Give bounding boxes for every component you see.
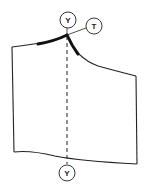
emphasized-segments xyxy=(38,35,78,54)
right-side-line xyxy=(136,76,137,164)
top-y-label: Y xyxy=(65,16,71,25)
t-leader xyxy=(67,28,86,35)
bottom-y-label: Y xyxy=(64,169,70,178)
armhole-emphasis xyxy=(67,35,78,54)
pattern-diagram: Y T Y xyxy=(0,0,145,186)
t-marker: T xyxy=(86,18,102,34)
left-side-line xyxy=(12,47,14,152)
shoulder-line xyxy=(12,43,40,47)
armhole-curve xyxy=(67,35,136,76)
pattern-outline xyxy=(12,35,137,164)
t-label: T xyxy=(92,22,97,31)
shoulder-emphasis xyxy=(38,35,67,44)
bottom-y-marker: Y xyxy=(59,165,75,181)
top-y-marker: Y xyxy=(60,12,76,28)
hem-line xyxy=(14,152,137,165)
